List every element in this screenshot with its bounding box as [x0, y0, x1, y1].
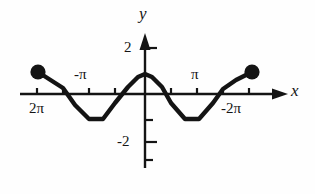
x-tick-label-2pi: 2π: [29, 101, 44, 116]
y-axis-ticks: [145, 48, 157, 160]
graph-canvas: [0, 0, 315, 194]
graph-figure: y x 2 -2 2π -π π -2π: [0, 0, 315, 194]
x-axis: [20, 89, 288, 100]
y-axis-label: y: [139, 5, 147, 22]
y-axis: [140, 33, 151, 168]
y-tick-label-2: 2: [124, 40, 132, 55]
x-tick-label-pi: π: [191, 67, 199, 82]
x-tick-label-minus-2pi: -2π: [221, 101, 241, 116]
x-axis-label: x: [291, 82, 299, 99]
y-tick-label-minus-2: -2: [117, 134, 130, 149]
x-tick-label-minus-pi: -π: [74, 67, 87, 82]
